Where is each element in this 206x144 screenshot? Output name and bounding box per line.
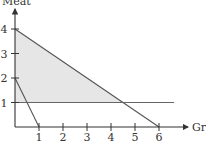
y-tick-label: 2 (1, 72, 8, 85)
x-tick-label: 3 (84, 131, 91, 144)
x-tick-label: 1 (36, 131, 43, 144)
y-tick-label: 1 (1, 97, 8, 110)
x-tick-label: 2 (60, 131, 67, 144)
y-axis-label: Meat (2, 0, 31, 8)
y-tick-label: 4 (1, 23, 8, 36)
x-tick-label: 6 (156, 131, 163, 144)
x-tick-label: 4 (108, 131, 115, 144)
chart: 1 2 3 4 1 2 3 4 5 6 Meat Grain (0, 0, 206, 144)
x-axis-label: Grain (192, 121, 206, 134)
x-tick-label: 5 (132, 131, 139, 144)
y-tick-label: 3 (1, 48, 8, 61)
